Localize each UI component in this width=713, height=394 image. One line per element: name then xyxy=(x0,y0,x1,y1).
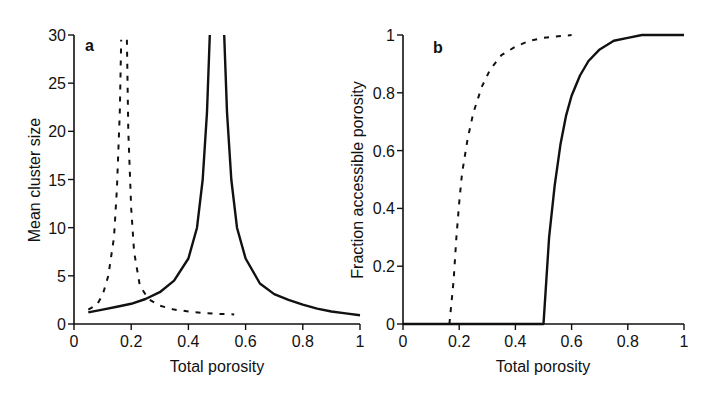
x-tick-label: 0 xyxy=(399,333,408,350)
panel-label-b: b xyxy=(433,39,443,56)
x-tick-label: 0.6 xyxy=(560,333,582,350)
x-tick-label: 1 xyxy=(356,333,365,350)
x-tick-label: 1 xyxy=(680,333,689,350)
y-tick-label: 20 xyxy=(48,123,66,140)
x-axis-label-b: Total porosity xyxy=(496,358,590,375)
chart-panel-b: 00.20.40.60.8100.20.40.60.81 b Total por… xyxy=(349,27,689,375)
panel-label-a: a xyxy=(85,37,94,54)
y-tick-label: 1 xyxy=(386,27,395,44)
axes-b xyxy=(403,35,684,324)
series-dashed-line xyxy=(449,35,571,324)
x-tick-label: 0.6 xyxy=(234,333,256,350)
x-tick-label: 0 xyxy=(70,333,79,350)
y-tick-label: 25 xyxy=(48,75,66,92)
ticks-a: 00.20.40.60.81051015202530 xyxy=(48,27,364,350)
series-solid-line xyxy=(88,35,210,312)
ticks-b: 00.20.40.60.8100.20.40.60.81 xyxy=(373,27,689,350)
x-tick-label: 0.8 xyxy=(292,333,314,350)
series-dashed-line xyxy=(88,40,121,310)
axes-a xyxy=(74,35,360,324)
x-tick-label: 0.4 xyxy=(504,333,526,350)
x-tick-label: 0.2 xyxy=(120,333,142,350)
series-solid-line xyxy=(403,35,684,324)
y-tick-label: 0.6 xyxy=(373,143,395,160)
y-tick-label: 0.4 xyxy=(373,200,395,217)
y-tick-label: 5 xyxy=(57,268,66,285)
plot-area-b xyxy=(403,35,684,324)
y-tick-label: 15 xyxy=(48,172,66,189)
chart-panel-a: 00.20.40.60.81051015202530 a Total poros… xyxy=(26,27,365,375)
x-axis-label-a: Total porosity xyxy=(170,358,264,375)
y-axis-label-a: Mean cluster size xyxy=(26,118,43,243)
plot-area-a xyxy=(88,35,360,315)
y-tick-label: 0.8 xyxy=(373,85,395,102)
y-tick-label: 0 xyxy=(57,316,66,333)
y-tick-label: 30 xyxy=(48,27,66,44)
y-tick-label: 10 xyxy=(48,220,66,237)
y-axis-label-b: Fraction accessible porosity xyxy=(349,81,366,278)
series-dashed-line xyxy=(127,40,234,315)
x-tick-label: 0.4 xyxy=(177,333,199,350)
y-tick-label: 0.2 xyxy=(373,258,395,275)
y-tick-label: 0 xyxy=(386,316,395,333)
figure: 00.20.40.60.81051015202530 a Total poros… xyxy=(0,0,713,394)
x-tick-label: 0.2 xyxy=(448,333,470,350)
series-solid-line xyxy=(224,35,360,315)
x-tick-label: 0.8 xyxy=(617,333,639,350)
